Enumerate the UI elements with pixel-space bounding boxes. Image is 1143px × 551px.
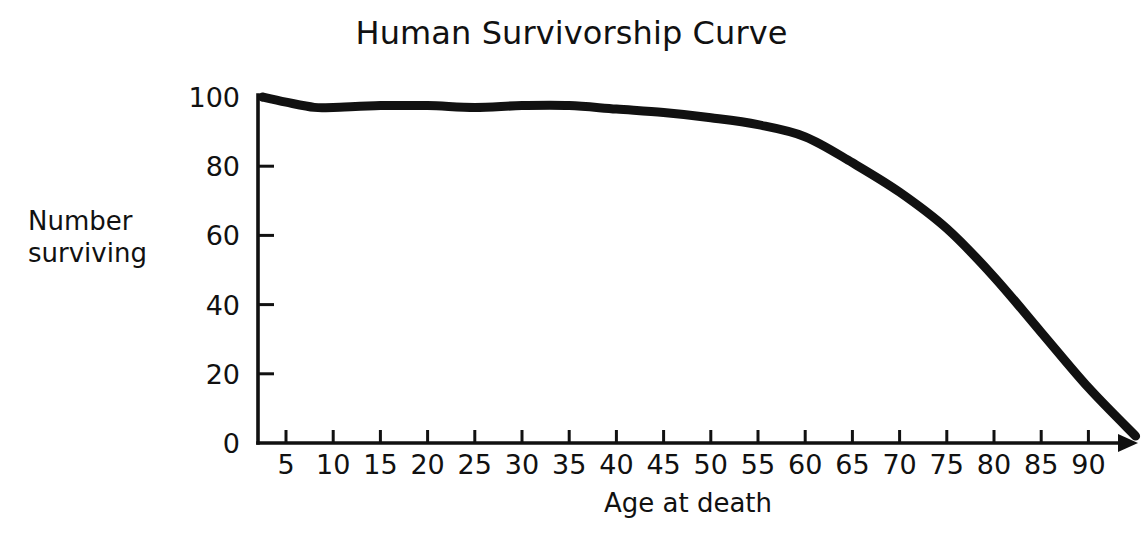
- x-tick-label: 30: [505, 449, 539, 480]
- x-tick-marks: [286, 430, 1088, 443]
- y-tick-label: 100: [188, 82, 240, 113]
- x-tick-label: 15: [363, 449, 397, 480]
- x-tick-label: 40: [599, 449, 633, 480]
- x-tick-label: 55: [741, 449, 775, 480]
- y-tick-label: 0: [223, 428, 240, 459]
- x-axis: 51015202530354045505560657075808590: [258, 430, 1138, 480]
- x-tick-label: 35: [552, 449, 586, 480]
- x-tick-label: 20: [410, 449, 444, 480]
- y-tick-label: 60: [206, 220, 240, 251]
- survivorship-curve-line: [262, 97, 1135, 436]
- x-tick-label: 85: [1024, 449, 1058, 480]
- x-tick-label: 70: [882, 449, 916, 480]
- x-tick-label: 60: [788, 449, 822, 480]
- x-tick-label: 45: [646, 449, 680, 480]
- x-tick-label: 90: [1071, 449, 1105, 480]
- y-tick-labels: 020406080100: [188, 82, 240, 459]
- x-tick-label: 50: [694, 449, 728, 480]
- y-tick-label: 20: [206, 359, 240, 390]
- x-tick-labels: 51015202530354045505560657075808590: [277, 449, 1105, 480]
- x-tick-label: 65: [835, 449, 869, 480]
- y-axis: 020406080100: [188, 82, 274, 459]
- x-tick-label: 10: [316, 449, 350, 480]
- y-tick-label: 80: [206, 151, 240, 182]
- x-tick-label: 5: [277, 449, 294, 480]
- x-tick-label: 80: [977, 449, 1011, 480]
- y-tick-marks: [258, 97, 274, 374]
- y-tick-label: 40: [206, 290, 240, 321]
- x-tick-label: 75: [930, 449, 964, 480]
- plot-area: 020406080100 510152025303540455055606570…: [0, 0, 1143, 551]
- chart-figure: Human Survivorship Curve Number survivin…: [0, 0, 1143, 551]
- x-tick-label: 25: [458, 449, 492, 480]
